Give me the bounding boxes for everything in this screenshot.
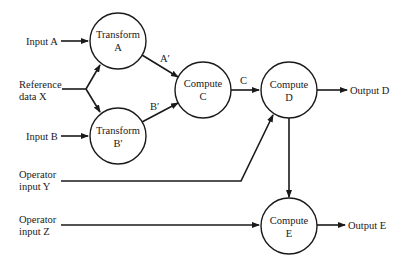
reference-x-label-line1: Reference xyxy=(19,79,62,90)
edge-reference-x-to-transform-b xyxy=(86,89,100,112)
operator-y-label-line1: Operator xyxy=(19,169,57,180)
output-e-label: Output E xyxy=(348,220,386,231)
node-compute-e: Compute E xyxy=(261,198,317,254)
edge-reference-x-to-transform-a xyxy=(86,65,100,89)
output-d-label: Output D xyxy=(350,85,390,96)
operator-y-label-line2: input Y xyxy=(19,181,51,192)
edge-transform-b-to-compute-c xyxy=(142,103,178,122)
edge-label-a-prime: A′ xyxy=(160,53,170,64)
node-label: C xyxy=(199,91,206,102)
reference-x-label-line2: data X xyxy=(19,91,47,102)
operator-z-label-line2: input Z xyxy=(19,226,50,237)
node-compute-d: Compute D xyxy=(261,62,317,118)
edge-label-b-prime: B′ xyxy=(150,101,159,112)
node-label: Compute xyxy=(270,215,309,226)
node-label: Transform xyxy=(96,125,140,136)
node-transform-a: Transform A xyxy=(90,13,146,69)
node-label: Compute xyxy=(184,78,223,89)
node-transform-b: Transform B' xyxy=(90,108,146,164)
node-label: A xyxy=(114,42,122,53)
edge-label-c: C xyxy=(240,75,247,86)
node-compute-c: Compute C xyxy=(175,62,231,118)
node-label: E xyxy=(286,228,292,239)
data-flow-diagram: Transform A Transform B' Compute C Compu… xyxy=(0,0,408,263)
node-label: Transform xyxy=(96,29,140,40)
node-label: D xyxy=(285,92,293,103)
input-b-label: Input B xyxy=(26,131,58,142)
node-label: B' xyxy=(114,138,123,149)
input-a-label: Input A xyxy=(26,36,58,47)
operator-z-label-line1: Operator xyxy=(19,214,57,225)
node-label: Compute xyxy=(270,79,309,90)
